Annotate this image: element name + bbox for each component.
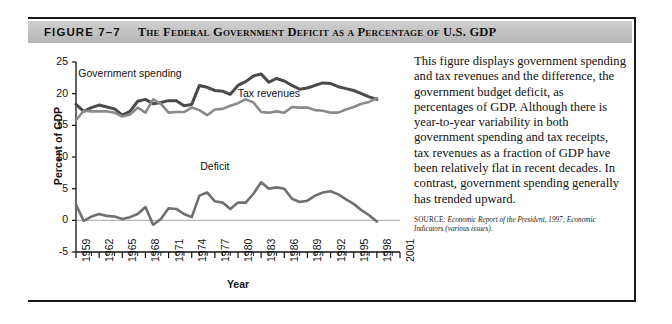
x-tick-label: 1977 [219,239,231,262]
chart: Percent of GDP Year Government spendingT… [28,48,408,298]
x-tick-label: 1974 [196,239,208,262]
x-tick-label: 1992 [335,239,347,262]
figure-bottom-rule [28,300,636,302]
series-annotation: Tax revenues [238,87,300,99]
series-annotation: Deficit [200,160,229,172]
figure-container: FIGURE 7–7 The Federal Government Defici… [0,0,672,324]
x-tick-label: 1968 [149,239,161,262]
figure-header-bar: FIGURE 7–7 The Federal Government Defici… [28,21,632,43]
y-tick-label: -5 [42,245,68,257]
series-line-government-spending [76,74,377,115]
figure-right-rule [634,17,636,302]
figure-number: FIGURE 7–7 [44,26,121,38]
figure-top-rule [28,17,636,19]
figure-title: The Federal Government Deficit as a Perc… [138,25,497,40]
x-tick-label: 1998 [381,239,393,262]
series-line-deficit [76,182,377,224]
caption-block: This figure displays government spending… [414,54,626,234]
x-tick-label: 1965 [126,239,138,262]
series-annotation: Government spending [78,67,181,79]
y-tick-label: 0 [42,213,68,225]
caption-text: This figure displays government spending… [414,54,626,207]
y-tick-label: 10 [42,150,68,162]
y-tick-label: 15 [42,118,68,130]
y-tick-label: 5 [42,182,68,194]
series-line-tax-revenues [76,98,377,120]
caption-source: SOURCE: Economic Report of the President… [414,216,626,234]
x-tick-label: 1989 [311,239,323,262]
x-tick-label: 1980 [242,239,254,262]
x-tick-label: 1995 [358,239,370,262]
source-label: SOURCE: [414,216,446,224]
x-tick-label: 1986 [288,239,300,262]
y-tick-label: 20 [42,87,68,99]
x-tick-label: 1959 [80,239,92,262]
x-tick-label: 1983 [265,239,277,262]
y-tick-label: 25 [42,55,68,67]
x-tick-label: 1971 [173,239,185,262]
x-tick-label: 1962 [103,239,115,262]
x-tick-label: 2001 [404,239,416,262]
